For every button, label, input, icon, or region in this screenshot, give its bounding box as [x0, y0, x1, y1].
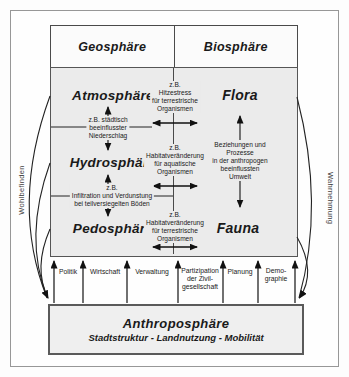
- anthroposphere-title: Anthroposphäre: [123, 316, 230, 331]
- label-politik: Politik: [59, 268, 77, 276]
- label-infiltration: z.B. Infiltration und Verdunstung bei te…: [70, 184, 154, 208]
- label-wohlbefinden: Wohlbefinden: [17, 165, 26, 214]
- label-wahrnehmung: Wahrnehmung: [326, 172, 335, 224]
- header-biosphere: Biosphäre: [175, 26, 298, 68]
- label-aquatic-habitat: z.B. Habitatveränderung für aquatische O…: [144, 144, 206, 176]
- sphere-fauna: Fauna: [217, 220, 260, 236]
- sphere-flora: Flora: [222, 87, 258, 103]
- sphere-atmosphere: Atmosphäre: [72, 88, 154, 103]
- label-demographie: Demo- graphie: [265, 267, 288, 283]
- label-partizipation: Partizipation der Zivil- gesellschaft: [181, 267, 218, 291]
- label-terrestrial-habitat: z.B. Habitatveränderung für terrestrisch…: [144, 211, 206, 243]
- header-row: Geosphäre Biosphäre: [50, 25, 298, 69]
- label-urban-precipitation: z.B. städtisch beeinflusster Niederschla…: [86, 116, 129, 140]
- label-heat-stress: z.B. Hitzestress für terrestrische Organ…: [150, 81, 200, 113]
- anthroposphere-box: Anthroposphäre Stadtstruktur - Landnutzu…: [48, 304, 304, 355]
- label-wirtschaft: Wirtschaft: [90, 268, 120, 276]
- label-verwaltung: Verwaltung: [135, 268, 169, 276]
- label-planung: Planung: [228, 268, 253, 276]
- sphere-pedosphere: Pedosphäre: [73, 221, 153, 236]
- diagram-canvas: Geosphäre Biosphäre: [0, 0, 349, 377]
- header-geosphere: Geosphäre: [51, 26, 174, 68]
- label-relations: Beziehungen und Prozesse in der anthropo…: [210, 141, 269, 181]
- anthroposphere-subtitle: Stadtstruktur - Landnutzung - Mobilität: [88, 332, 263, 343]
